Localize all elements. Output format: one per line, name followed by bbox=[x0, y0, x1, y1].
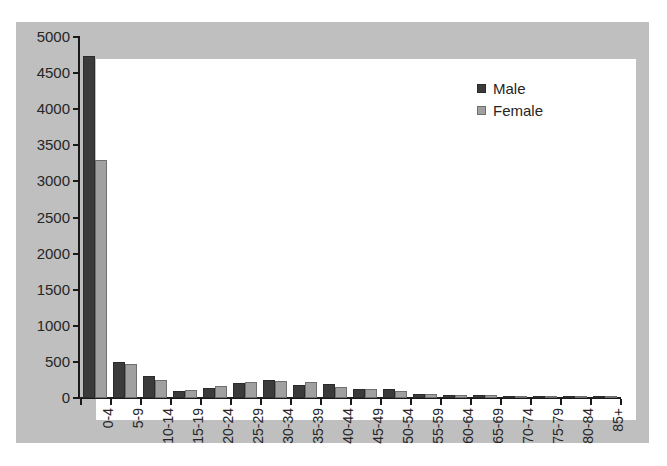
y-axis-tick bbox=[73, 217, 79, 219]
y-axis-tick bbox=[73, 180, 79, 182]
x-axis-tick bbox=[470, 399, 472, 405]
x-axis-tick bbox=[440, 399, 442, 405]
x-axis-label: 50-54 bbox=[401, 408, 415, 444]
y-axis-label: 0 bbox=[8, 390, 70, 405]
x-axis-tick bbox=[170, 399, 172, 405]
bar-female-35-39 bbox=[305, 382, 317, 398]
x-axis-tick bbox=[140, 399, 142, 405]
x-axis-label: 40-44 bbox=[341, 408, 355, 444]
bar-male-40-44 bbox=[323, 384, 335, 398]
chart-legend: Male Female bbox=[477, 78, 543, 122]
bar-female-70-74 bbox=[515, 396, 527, 398]
plot-area bbox=[96, 59, 636, 420]
legend-label-female: Female bbox=[493, 103, 543, 118]
x-axis-tick bbox=[620, 399, 622, 405]
y-axis-label: 5000 bbox=[8, 29, 70, 44]
bar-female-85+ bbox=[605, 396, 617, 398]
bar-male-70-74 bbox=[503, 396, 515, 398]
x-axis-label: 35-39 bbox=[311, 408, 325, 444]
x-axis-tick bbox=[530, 399, 532, 405]
bar-male-35-39 bbox=[293, 385, 305, 398]
x-axis-label: 70-74 bbox=[521, 408, 535, 444]
y-axis-label: 1000 bbox=[8, 318, 70, 333]
bar-male-60-64 bbox=[443, 395, 455, 398]
x-axis-tick bbox=[380, 399, 382, 405]
bar-female-45-49 bbox=[365, 389, 377, 398]
bar-female-50-54 bbox=[395, 391, 407, 398]
x-axis-tick bbox=[590, 399, 592, 405]
x-axis-label: 25-29 bbox=[251, 408, 265, 444]
bar-male-80-84 bbox=[563, 396, 575, 398]
bar-female-0-4 bbox=[95, 160, 107, 398]
y-axis-tick bbox=[73, 325, 79, 327]
x-axis-label: 85+ bbox=[611, 408, 625, 432]
bar-male-15-19 bbox=[173, 391, 185, 398]
y-axis-label: 2500 bbox=[8, 210, 70, 225]
x-axis-label: 60-64 bbox=[461, 408, 475, 444]
legend-swatch-female-icon bbox=[477, 106, 486, 115]
y-axis-label: 1500 bbox=[8, 282, 70, 297]
x-axis-tick bbox=[200, 399, 202, 405]
x-axis-label: 15-19 bbox=[191, 408, 205, 444]
y-axis-tick bbox=[73, 289, 79, 291]
bar-female-25-29 bbox=[245, 382, 257, 398]
y-axis-tick bbox=[73, 397, 79, 399]
x-axis-label: 5-9 bbox=[131, 408, 145, 428]
bar-female-15-19 bbox=[185, 390, 197, 398]
y-axis-tick bbox=[73, 36, 79, 38]
x-axis-label: 75-79 bbox=[551, 408, 565, 444]
x-axis-tick bbox=[110, 399, 112, 405]
y-axis-tick bbox=[73, 72, 79, 74]
legend-label-male: Male bbox=[493, 81, 526, 96]
bar-female-30-34 bbox=[275, 381, 287, 398]
y-axis-label: 4000 bbox=[8, 101, 70, 116]
legend-item-female: Female bbox=[477, 100, 543, 120]
bar-female-20-24 bbox=[215, 386, 227, 398]
x-axis-label: 55-59 bbox=[431, 408, 445, 444]
bar-female-10-14 bbox=[155, 380, 167, 398]
x-axis-tick bbox=[350, 399, 352, 405]
x-axis-tick bbox=[560, 399, 562, 405]
legend-item-male: Male bbox=[477, 78, 543, 98]
bar-female-55-59 bbox=[425, 394, 437, 398]
legend-swatch-male-icon bbox=[477, 84, 486, 93]
x-axis-label: 30-34 bbox=[281, 408, 295, 444]
y-axis-tick bbox=[73, 144, 79, 146]
population-age-pyramid-chart: 0500100015002000250030003500400045005000… bbox=[0, 0, 667, 466]
y-axis-tick bbox=[73, 108, 79, 110]
x-axis-label: 10-14 bbox=[161, 408, 175, 444]
y-axis-label: 4500 bbox=[8, 65, 70, 80]
x-axis-label: 0-4 bbox=[101, 408, 115, 428]
bar-male-55-59 bbox=[413, 394, 425, 398]
chart-frame bbox=[16, 22, 649, 443]
bar-female-65-69 bbox=[485, 395, 497, 398]
bar-male-0-4 bbox=[83, 56, 95, 398]
x-axis-tick bbox=[410, 399, 412, 405]
x-axis-tick bbox=[500, 399, 502, 405]
bar-male-50-54 bbox=[383, 389, 395, 398]
x-axis-tick bbox=[320, 399, 322, 405]
y-axis-label: 3000 bbox=[8, 173, 70, 188]
x-axis-label: 20-24 bbox=[221, 408, 235, 444]
x-axis-tick bbox=[290, 399, 292, 405]
y-axis-tick bbox=[73, 253, 79, 255]
bar-male-10-14 bbox=[143, 376, 155, 398]
bar-male-20-24 bbox=[203, 388, 215, 398]
bar-female-40-44 bbox=[335, 387, 347, 398]
x-axis-label: 65-69 bbox=[491, 408, 505, 444]
y-axis-tick bbox=[73, 361, 79, 363]
bar-male-65-69 bbox=[473, 395, 485, 398]
bar-male-45-49 bbox=[353, 389, 365, 398]
bar-male-25-29 bbox=[233, 383, 245, 398]
bar-female-60-64 bbox=[455, 395, 467, 398]
bar-male-30-34 bbox=[263, 380, 275, 398]
y-axis-label: 500 bbox=[8, 354, 70, 369]
x-axis-tick bbox=[80, 399, 82, 405]
bar-female-75-79 bbox=[545, 396, 557, 398]
y-axis-label: 2000 bbox=[8, 246, 70, 261]
x-axis-tick bbox=[260, 399, 262, 405]
bar-male-75-79 bbox=[533, 396, 545, 398]
x-axis-label: 45-49 bbox=[371, 408, 385, 444]
bar-female-5-9 bbox=[125, 364, 137, 398]
bar-male-5-9 bbox=[113, 362, 125, 398]
